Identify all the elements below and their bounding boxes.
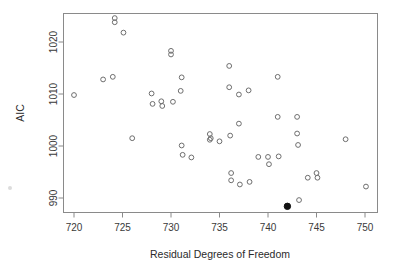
data-point-selected — [284, 203, 290, 209]
plot-canvas: 720725730735740745750 990100010101020 Re… — [0, 0, 402, 274]
y-tick-label: 1000 — [48, 134, 59, 157]
data-point — [171, 99, 176, 104]
data-points-open — [72, 16, 369, 203]
scatter-plot-figure: 720725730735740745750 990100010101020 Re… — [0, 0, 402, 274]
data-point — [305, 175, 310, 180]
data-point — [237, 121, 242, 126]
data-point — [315, 175, 320, 180]
y-tick-label: 990 — [48, 189, 59, 206]
data-point — [228, 133, 233, 138]
data-point — [227, 64, 232, 69]
data-points-filled — [284, 203, 290, 209]
data-point — [246, 88, 251, 93]
data-point — [314, 171, 319, 176]
data-point — [256, 155, 261, 160]
data-point — [276, 154, 281, 159]
data-point — [266, 155, 271, 160]
y-tick-label: 1010 — [48, 82, 59, 105]
x-tick-label: 745 — [308, 222, 325, 233]
x-tick-label: 725 — [114, 222, 131, 233]
data-point — [101, 77, 106, 82]
y-tick-label: 1020 — [48, 30, 59, 53]
data-point — [275, 74, 280, 79]
data-point — [295, 131, 300, 136]
data-point — [295, 114, 300, 119]
data-point — [275, 114, 280, 119]
data-point — [179, 143, 184, 148]
data-point — [159, 99, 164, 104]
data-point — [189, 155, 194, 160]
data-point — [364, 184, 369, 189]
x-tick-label: 735 — [211, 222, 228, 233]
x-axis-ticks — [74, 213, 365, 218]
x-axis-tick-labels: 720725730735740745750 — [66, 222, 374, 233]
data-point — [121, 30, 126, 35]
data-point — [267, 162, 272, 167]
data-point — [160, 104, 165, 109]
data-point — [247, 179, 252, 184]
data-point — [110, 74, 115, 79]
x-axis-title: Residual Degrees of Freedom — [150, 248, 290, 260]
data-point — [150, 101, 155, 106]
data-point — [217, 139, 222, 144]
data-point — [178, 88, 183, 93]
data-point — [130, 136, 135, 141]
plot-frame — [64, 14, 378, 213]
x-tick-label: 730 — [163, 222, 180, 233]
x-tick-label: 720 — [66, 222, 83, 233]
y-axis-ticks — [59, 42, 64, 198]
data-point — [237, 92, 242, 97]
data-point — [149, 91, 154, 96]
x-tick-label: 740 — [260, 222, 277, 233]
data-point — [179, 75, 184, 80]
data-point — [180, 152, 185, 157]
y-axis-title: AIC — [14, 104, 26, 122]
data-point — [343, 137, 348, 142]
x-tick-label: 750 — [357, 222, 374, 233]
data-point — [227, 85, 232, 90]
data-point — [229, 178, 234, 183]
y-axis-tick-labels: 990100010101020 — [48, 30, 59, 206]
data-point — [229, 171, 234, 176]
data-point — [237, 182, 242, 187]
data-point — [297, 198, 302, 203]
data-point — [72, 93, 77, 98]
data-point — [296, 143, 301, 148]
